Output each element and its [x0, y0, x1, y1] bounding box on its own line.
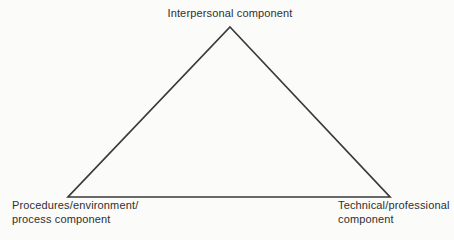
label-procedures-environment-process-component: Procedures/environment/ process componen…	[12, 199, 138, 226]
label-technical-professional-line2: component	[338, 213, 450, 227]
label-procedures-environment-line2: process component	[12, 213, 138, 227]
label-procedures-environment-line1: Procedures/environment/	[12, 199, 138, 213]
label-interpersonal-component: Interpersonal component	[167, 7, 292, 21]
label-interpersonal-component-text: Interpersonal component	[167, 7, 292, 21]
label-technical-professional-line1: Technical/professional	[338, 199, 450, 213]
triangle-shape	[68, 27, 390, 197]
triangle-components-figure: Interpersonal component Procedures/envir…	[0, 0, 454, 240]
label-technical-professional-component: Technical/professional component	[338, 199, 450, 226]
